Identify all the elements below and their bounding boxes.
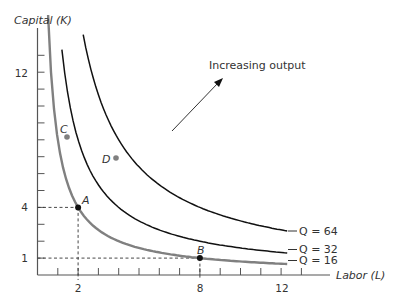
point-d xyxy=(113,155,119,161)
y-tick-label-4: 4 xyxy=(21,201,28,213)
y-tick-label-1: 1 xyxy=(21,252,28,264)
isoquant-q16 xyxy=(48,15,287,264)
point-a xyxy=(75,204,81,210)
isoquant-q32 xyxy=(62,50,287,253)
y-tick-label-12: 12 xyxy=(15,67,28,79)
annotation-increasing-output: Increasing output xyxy=(209,59,306,72)
x-tick-label-2: 2 xyxy=(75,282,82,294)
label-a: A xyxy=(81,194,90,207)
x-axis-label: Labor (L) xyxy=(336,269,385,282)
label-d: D xyxy=(102,153,110,166)
isoquant-chart: Q = 64 Q = 32 Q = 16 A B C D 2 8 12 1 4 … xyxy=(0,0,395,301)
x-axis-ticks xyxy=(58,268,302,275)
label-q64: Q = 64 xyxy=(299,225,338,238)
x-tick-label-8: 8 xyxy=(197,282,204,294)
y-axis-ticks xyxy=(38,55,45,258)
label-q16: Q = 16 xyxy=(299,254,338,267)
label-c: C xyxy=(60,123,68,136)
label-b: B xyxy=(197,244,205,257)
y-axis-label: Capital (K) xyxy=(14,14,72,27)
x-tick-label-12: 12 xyxy=(275,282,288,294)
increasing-output-arrow xyxy=(172,83,218,131)
